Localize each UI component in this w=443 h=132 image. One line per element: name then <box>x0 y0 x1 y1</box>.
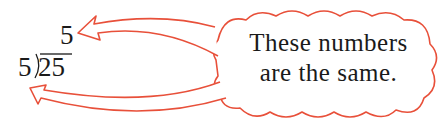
diagram: 5 5 25 These numbers are the same. <box>0 0 443 132</box>
quotient: 5 <box>60 22 74 49</box>
curved-arrow-icon <box>78 16 218 56</box>
callout-line-2: are the same. <box>226 58 431 88</box>
callout-line-1: These numbers <box>226 28 431 58</box>
callout-text: These numbers are the same. <box>226 28 431 88</box>
divisor: 5 <box>18 54 32 81</box>
dividend: 25 <box>38 54 65 81</box>
curved-arrow-icon <box>30 82 226 111</box>
